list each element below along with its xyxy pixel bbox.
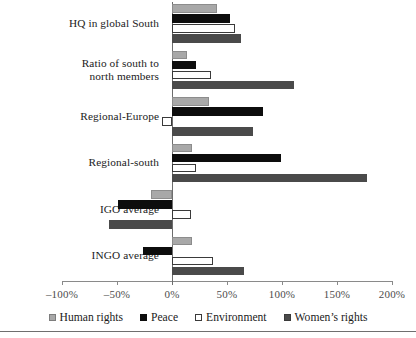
x-tick xyxy=(227,281,228,285)
x-tick-label: 100% xyxy=(269,288,295,300)
bar-env-4 xyxy=(172,210,191,219)
legend-label: Women’s rights xyxy=(295,311,368,324)
x-tick-label: 50% xyxy=(217,288,238,300)
x-tick-label: –100% xyxy=(46,288,78,300)
bar-peace-1 xyxy=(172,61,196,70)
x-tick xyxy=(172,277,173,285)
bar-hr-0 xyxy=(172,4,217,13)
legend-swatch-icon xyxy=(284,314,291,321)
bar-wr-2 xyxy=(172,127,253,136)
legend-item[interactable]: Peace xyxy=(140,311,178,324)
bar-env-5 xyxy=(172,257,213,266)
legend-swatch-icon xyxy=(49,314,56,321)
bars-canvas xyxy=(0,0,416,283)
bar-hr-5 xyxy=(172,237,192,246)
bar-hr-4 xyxy=(151,190,172,199)
bar-hr-3 xyxy=(172,144,192,153)
x-tick xyxy=(337,281,338,285)
bar-peace-3 xyxy=(172,154,281,163)
legend-item[interactable]: Women’s rights xyxy=(284,311,368,324)
x-tick-label: –50% xyxy=(104,288,130,300)
x-tick xyxy=(117,281,118,285)
bar-wr-5 xyxy=(172,267,244,276)
x-axis: –100%–50%0%50%100%150%200% xyxy=(0,281,416,305)
bar-env-1 xyxy=(172,71,211,80)
chart-legend: Human rightsPeaceEnvironmentWomen’s righ… xyxy=(0,309,416,325)
bar-chart: HQ in global SouthRatio of south to nort… xyxy=(0,0,416,338)
bar-hr-2 xyxy=(172,97,209,106)
legend-swatch-icon xyxy=(195,314,202,321)
x-tick-label: 150% xyxy=(324,288,350,300)
bar-peace-2 xyxy=(172,107,263,116)
bar-env-2 xyxy=(162,117,172,126)
legend-item[interactable]: Environment xyxy=(195,311,267,324)
legend-label: Peace xyxy=(151,311,178,324)
legend-label: Environment xyxy=(206,311,267,324)
bar-peace-4 xyxy=(118,200,172,209)
footer-divider xyxy=(0,331,416,332)
legend-item[interactable]: Human rights xyxy=(49,311,123,324)
legend-label: Human rights xyxy=(60,311,123,324)
x-tick-label: 200% xyxy=(379,288,405,300)
bar-env-0 xyxy=(172,24,235,33)
x-tick xyxy=(62,281,63,285)
plot-area: HQ in global SouthRatio of south to nort… xyxy=(0,0,416,300)
bar-hr-1 xyxy=(172,51,187,60)
bar-peace-0 xyxy=(172,14,230,23)
bar-wr-1 xyxy=(172,81,294,90)
bar-wr-0 xyxy=(172,34,241,43)
bar-wr-3 xyxy=(172,174,367,183)
bar-peace-5 xyxy=(143,247,172,256)
x-tick xyxy=(392,281,393,285)
x-tick-label: 0% xyxy=(164,288,179,300)
legend-swatch-icon xyxy=(140,314,147,321)
bar-env-3 xyxy=(172,164,196,173)
bar-wr-4 xyxy=(109,220,172,229)
x-tick xyxy=(282,281,283,285)
